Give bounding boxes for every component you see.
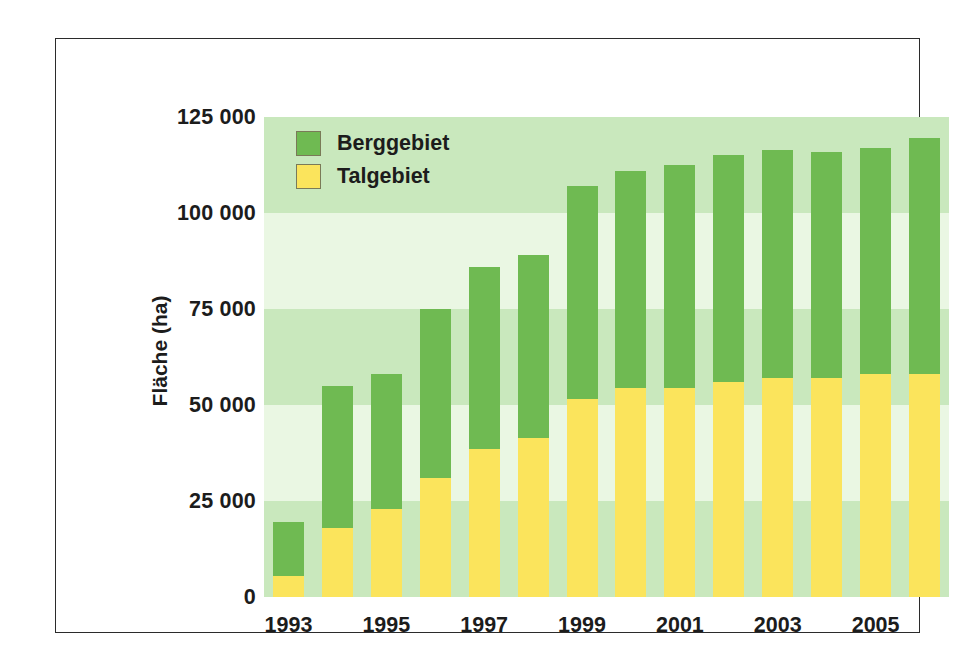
bar-1995[interactable]	[371, 374, 402, 597]
bar-segment-talgebiet[interactable]	[615, 388, 646, 597]
bar-segment-berggebiet[interactable]	[567, 186, 598, 399]
bar-segment-berggebiet[interactable]	[713, 155, 744, 382]
y-axis-tick-label: 25 000	[106, 489, 256, 514]
bar-segment-talgebiet[interactable]	[273, 576, 304, 597]
bar-segment-talgebiet[interactable]	[518, 438, 549, 597]
bar-2004[interactable]	[811, 152, 842, 597]
bar-segment-berggebiet[interactable]	[322, 386, 353, 528]
bar-segment-talgebiet[interactable]	[420, 478, 451, 597]
y-axis-tick-label: 50 000	[106, 393, 256, 418]
bar-1998[interactable]	[518, 255, 549, 597]
bar-1996[interactable]	[420, 309, 451, 597]
bar-segment-talgebiet[interactable]	[322, 528, 353, 597]
chart-figure: Fläche (ha) 025 00050 00075 000100 00012…	[0, 0, 970, 669]
bar-1993[interactable]	[273, 522, 304, 597]
y-axis-tick-label: 0	[106, 585, 256, 610]
bar-segment-berggebiet[interactable]	[518, 255, 549, 437]
bar-segment-berggebiet[interactable]	[909, 138, 940, 374]
bar-segment-talgebiet[interactable]	[664, 388, 695, 597]
bar-1999[interactable]	[567, 186, 598, 597]
bar-segment-berggebiet[interactable]	[273, 522, 304, 576]
bar-2006[interactable]	[909, 138, 940, 597]
legend-swatch-icon	[296, 164, 321, 189]
chart-frame: Fläche (ha) 025 00050 00075 000100 00012…	[55, 38, 920, 633]
x-axis-tick-label: 1993	[248, 613, 328, 638]
x-axis-tick-label: 1999	[542, 613, 622, 638]
y-axis-tick-label: 75 000	[106, 297, 256, 322]
bar-segment-berggebiet[interactable]	[371, 374, 402, 508]
bar-segment-berggebiet[interactable]	[860, 148, 891, 375]
bar-segment-talgebiet[interactable]	[567, 399, 598, 597]
bar-segment-talgebiet[interactable]	[371, 509, 402, 597]
legend-label: Talgebiet	[337, 164, 430, 189]
bar-segment-talgebiet[interactable]	[811, 378, 842, 597]
x-axis-tick-label: 2005	[836, 613, 916, 638]
y-axis-tick-label: 125 000	[106, 105, 256, 130]
legend-swatch-icon	[296, 131, 321, 156]
x-axis-ticks: 1993199519971999200120032005	[264, 613, 949, 647]
bar-segment-talgebiet[interactable]	[860, 374, 891, 597]
bar-segment-berggebiet[interactable]	[811, 152, 842, 379]
x-axis-tick-label: 1995	[346, 613, 426, 638]
bar-2000[interactable]	[615, 171, 646, 597]
bar-segment-talgebiet[interactable]	[762, 378, 793, 597]
chart-legend: BerggebietTalgebiet	[296, 127, 526, 193]
bar-segment-talgebiet[interactable]	[469, 449, 500, 597]
bar-2003[interactable]	[762, 150, 793, 597]
bar-segment-talgebiet[interactable]	[713, 382, 744, 597]
legend-item-talgebiet[interactable]: Talgebiet	[296, 160, 526, 193]
x-axis-tick-label: 2003	[738, 613, 818, 638]
bar-1994[interactable]	[322, 386, 353, 597]
legend-item-berggebiet[interactable]: Berggebiet	[296, 127, 526, 160]
bar-segment-berggebiet[interactable]	[615, 171, 646, 388]
legend-label: Berggebiet	[337, 131, 449, 156]
y-axis-ticks: 025 00050 00075 000100 000125 000	[98, 117, 256, 597]
y-axis-tick-label: 100 000	[106, 201, 256, 226]
bar-1997[interactable]	[469, 267, 500, 597]
bar-2005[interactable]	[860, 148, 891, 597]
bar-segment-berggebiet[interactable]	[664, 165, 695, 388]
bar-segment-berggebiet[interactable]	[420, 309, 451, 478]
x-axis-tick-label: 2001	[640, 613, 720, 638]
bar-2001[interactable]	[664, 165, 695, 597]
bar-segment-berggebiet[interactable]	[469, 267, 500, 449]
bar-2002[interactable]	[713, 155, 744, 597]
bar-segment-berggebiet[interactable]	[762, 150, 793, 378]
bar-segment-talgebiet[interactable]	[909, 374, 940, 597]
x-axis-tick-label: 1997	[444, 613, 524, 638]
